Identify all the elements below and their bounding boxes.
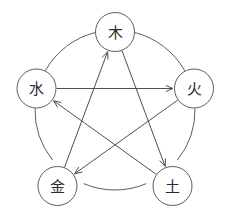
node-metal-label: 金 (50, 178, 65, 196)
arrow-earth-water (54, 101, 157, 175)
arc-metal-water (35, 108, 53, 160)
node-earth[interactable]: 土 (153, 167, 192, 206)
inner-arrow-group (54, 51, 178, 175)
node-fire-label: 火 (187, 80, 202, 98)
arc-fire-earth (177, 108, 195, 160)
node-water[interactable]: 水 (17, 69, 56, 108)
arrow-wood-earth (122, 51, 165, 167)
arrow-water-fire (57, 86, 174, 92)
arc-wood-fire (135, 32, 185, 70)
node-fire[interactable]: 火 (175, 69, 214, 108)
arrow-metal-wood-shaft (65, 52, 108, 168)
node-water-label: 水 (29, 80, 44, 98)
diagram-canvas: 木火土金水 (0, 0, 228, 217)
node-metal[interactable]: 金 (38, 167, 77, 206)
arc-earth-metal (84, 184, 147, 190)
arrow-metal-wood (65, 52, 108, 168)
wuxing-diagram: 木火土金水 (0, 0, 228, 217)
node-earth-label: 土 (165, 178, 180, 196)
node-wood-label: 木 (108, 24, 123, 42)
node-wood[interactable]: 木 (96, 13, 135, 52)
arrow-earth-water-shaft (54, 101, 157, 175)
arc-water-wood (45, 32, 95, 70)
arrow-wood-earth-shaft (122, 51, 165, 167)
node-group: 木火土金水 (17, 13, 214, 206)
